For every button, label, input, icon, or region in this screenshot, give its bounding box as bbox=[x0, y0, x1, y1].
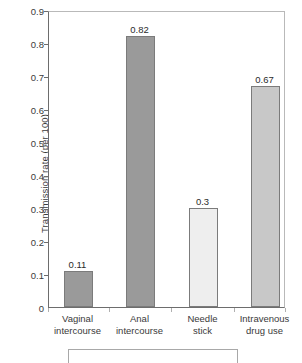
category-label-line: Intravenous bbox=[240, 313, 290, 325]
y-axis-tick-label: 0.9 bbox=[4, 6, 44, 17]
x-axis-category-label: Analintercourse bbox=[116, 313, 163, 336]
y-axis-tick-label: 0.4 bbox=[4, 171, 44, 182]
x-axis-category-label: Intravenousdrug use bbox=[240, 313, 290, 336]
x-axis-tick-mark bbox=[48, 308, 49, 312]
x-axis-category-label: Vaginalintercourse bbox=[54, 313, 101, 336]
category-label-line: Needle bbox=[187, 313, 217, 325]
bar bbox=[64, 271, 93, 307]
category-label-line: intercourse bbox=[54, 325, 101, 337]
x-axis-tick-mark bbox=[285, 308, 286, 312]
y-axis-tick-label: 0.5 bbox=[4, 138, 44, 149]
bar-value-label: 0.3 bbox=[196, 196, 209, 207]
category-label-line: drug use bbox=[240, 325, 290, 337]
category-label-line: intercourse bbox=[116, 325, 163, 337]
bar bbox=[126, 36, 155, 307]
y-axis-tick-label: 0.8 bbox=[4, 39, 44, 50]
bar bbox=[189, 208, 218, 307]
x-axis-tick-mark bbox=[171, 308, 172, 312]
y-axis-tick-label: 0.7 bbox=[4, 72, 44, 83]
category-label-line: Vaginal bbox=[54, 313, 101, 325]
y-axis-tick-label: 0.3 bbox=[4, 204, 44, 215]
x-axis-tick-mark bbox=[109, 308, 110, 312]
category-label-line: Anal bbox=[116, 313, 163, 325]
x-axis-tick-mark bbox=[234, 308, 235, 312]
y-axis-tick-label: 0 bbox=[4, 303, 44, 314]
y-axis-tick-label: 0.2 bbox=[4, 237, 44, 248]
bar-value-label: 0.82 bbox=[130, 24, 149, 35]
caption-box bbox=[68, 349, 238, 363]
bar-value-label: 0.11 bbox=[69, 259, 87, 270]
x-axis-category-label: Needlestick bbox=[187, 313, 217, 336]
y-axis-tick-label: 0.1 bbox=[4, 270, 44, 281]
bar bbox=[251, 86, 280, 307]
category-label-line: stick bbox=[187, 325, 217, 337]
y-axis-tick-label: 0.6 bbox=[4, 105, 44, 116]
bar-value-label: 0.67 bbox=[255, 74, 274, 85]
